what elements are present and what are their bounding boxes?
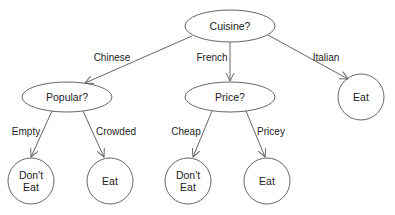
- edge-label-chinese: Chinese: [94, 52, 131, 63]
- node-label-cheap-dont-eat: Don't Eat: [176, 169, 200, 193]
- edge-label-crowded: Crowded: [96, 126, 136, 137]
- edge-label-italian: Italian: [313, 52, 340, 63]
- edge-label-cheap: Cheap: [171, 126, 200, 137]
- node-label-crowded-eat: Eat: [102, 175, 118, 187]
- node-label-price: Price?: [215, 91, 245, 103]
- node-label-popular: Popular?: [46, 91, 88, 103]
- node-label-empty-dont-eat: Don't Eat: [19, 169, 43, 193]
- node-label-pricey-eat: Eat: [259, 175, 275, 187]
- node-label-italian-eat: Eat: [353, 91, 369, 103]
- edge-label-pricey: Pricey: [257, 126, 285, 137]
- node-label-cuisine: Cuisine?: [210, 20, 251, 32]
- edge-label-empty: Empty: [12, 126, 40, 137]
- edge-label-french: French: [196, 52, 227, 63]
